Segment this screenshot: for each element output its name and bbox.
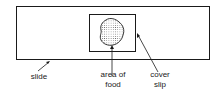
- label-slide: slide: [26, 72, 52, 81]
- food-area-blob: [100, 19, 123, 46]
- label-cover-line1: cover: [146, 70, 174, 79]
- label-cover-line2: slip: [146, 80, 174, 89]
- label-area-line1: area of: [96, 70, 130, 79]
- label-area-line2: food: [96, 80, 130, 89]
